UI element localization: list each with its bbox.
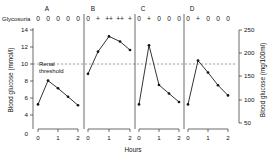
panel-letter-c: C [141,5,146,12]
data-point [37,103,40,106]
glycosuria-symbol: ++ [105,15,113,22]
glucose-tolerance-figure: Glycosuria A B C D 0 0 0 0 0 0 + ++ ++ +… [0,0,270,163]
renal-threshold-label-line2: threshold [39,68,64,74]
glycosuria-symbol: 0 [226,15,230,22]
glycosuria-symbol: + [196,15,200,22]
x-tick-label: 2 [177,134,181,141]
x-tick-label: 1 [157,134,161,141]
data-point [87,72,90,75]
x-tick-label: 0 [36,134,40,141]
data-point [217,84,220,87]
glycosuria-symbol: + [128,15,132,22]
data-point [108,35,111,38]
glycosuria-symbol: 0 [206,15,210,22]
y-origin-label: 0 [25,130,29,137]
y2-tick-label: 200 [244,49,255,56]
glycosuria-symbol: 0 [36,15,40,22]
glycosuria-symbol: 0 [66,15,70,22]
y-tick-label: 6 [25,94,29,101]
x-tick-label: 0 [86,134,90,141]
glycosuria-symbol: 0 [177,15,181,22]
glycosuria-symbol: 0 [76,15,80,22]
data-point [197,59,200,62]
x-tick-label: 0 [186,134,190,141]
y-tick-label: 12 [21,43,28,50]
glycosuria-symbol: + [147,15,151,22]
data-point [187,103,190,106]
right-axis-title: Blood glucose (mg/100ml) [259,43,267,117]
left-axis-title: Blood glucose (mmol/l) [7,48,15,113]
data-point [138,103,141,106]
x-tick-label: 0 [137,134,141,141]
x-tick-label: 1 [107,134,111,141]
x-tick-label: 2 [76,134,80,141]
glycosuria-row-label: Glycosuria [2,16,31,22]
data-point [47,79,50,82]
data-point [148,44,151,47]
y-tick-label: 10 [21,60,28,67]
y2-tick-label: 100 [244,96,255,103]
data-point [158,84,161,87]
glycosuria-symbol: 0 [216,15,220,22]
data-point [67,95,70,98]
y-tick-label: 8 [25,77,29,84]
y2-tick-label: 150 [244,72,255,79]
x-tick-label: 2 [128,134,132,141]
x-tick-label: 1 [56,134,60,141]
data-point [227,94,230,97]
renal-threshold-label-line1: Renal [39,61,55,67]
y-tick-label: 14 [21,26,28,33]
y2-tick-label: 50 [244,119,251,126]
x-tick-label: 1 [206,134,210,141]
y2-tick-label: 250 [244,26,255,33]
glycosuria-symbol: 0 [86,15,90,22]
glycosuria-symbol: 0 [137,15,141,22]
data-point [178,101,181,104]
panel-letter-b: B [91,5,95,12]
glycosuria-symbol: 0 [157,15,161,22]
glycosuria-symbol: 0 [167,15,171,22]
data-point [168,92,171,95]
glycosuria-symbol: ++ [116,15,124,22]
data-point [119,40,122,43]
data-point [207,71,210,74]
panel-letter-d: D [190,5,195,12]
data-point [97,50,100,53]
panel-letter-a: A [45,5,50,12]
glycosuria-symbol: 0 [46,15,50,22]
data-point [57,87,60,90]
x-axis-title: Hours [124,146,141,153]
y-tick-label: 4 [25,111,29,118]
data-point [129,49,132,52]
data-point [77,104,80,107]
x-tick-label: 2 [226,134,230,141]
glycosuria-symbol: 0 [186,15,190,22]
glycosuria-symbol: 0 [56,15,60,22]
glycosuria-symbol: + [96,15,100,22]
